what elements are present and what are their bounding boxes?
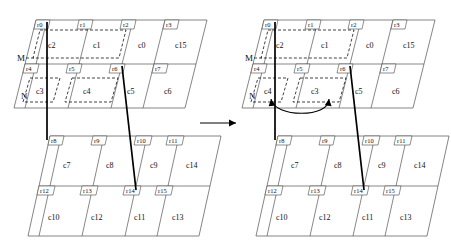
r-u-c15-label: c15 bbox=[403, 41, 415, 50]
l-u-c2-label: c2 bbox=[48, 41, 56, 50]
transition-arrow bbox=[200, 120, 236, 127]
r-u-r1-label: r1 bbox=[308, 21, 313, 28]
l-u-tab-r1: r1 bbox=[77, 20, 93, 29]
l-u-tab-r4: r4 bbox=[23, 64, 39, 73]
r-l-c11-label: c11 bbox=[362, 213, 373, 222]
left-lower-panel: r8 r9 r10 r11 r12 r13 r14 r15 bbox=[28, 136, 221, 236]
l-l-r12-label: r12 bbox=[40, 187, 49, 194]
r-l-c13-label: c13 bbox=[400, 213, 412, 222]
r-u-M-label: M bbox=[245, 53, 253, 63]
r-u-c4-label: c4 bbox=[264, 87, 272, 96]
l-u-r1-label: r1 bbox=[80, 21, 85, 28]
r-u-tab-r5: r5 bbox=[294, 64, 310, 73]
left-connector-line-b bbox=[122, 66, 136, 190]
left-upper-panel: r0 r1 r2 r3 r4 r5 r6 r7 bbox=[14, 20, 207, 108]
r-u-c0-label: c0 bbox=[366, 41, 374, 50]
r-u-c6-label: c6 bbox=[392, 87, 400, 96]
l-u-c1-label: c1 bbox=[93, 41, 101, 50]
r-l-tab-r14: r14 bbox=[351, 186, 369, 195]
right-upper-dashed-box-c3 bbox=[293, 78, 346, 102]
l-l-tab-r9: r9 bbox=[91, 136, 107, 145]
l-u-r5-label: r5 bbox=[69, 65, 74, 72]
l-l-tab-r13: r13 bbox=[80, 186, 98, 195]
r-l-tab-r11: r11 bbox=[394, 136, 412, 145]
l-u-r3-label: r3 bbox=[166, 21, 171, 28]
r-u-r7-label: r7 bbox=[383, 65, 389, 72]
l-u-r4-label: r4 bbox=[26, 65, 32, 72]
r-l-tab-r15: r15 bbox=[383, 186, 401, 195]
l-u-c4-label: c4 bbox=[83, 87, 91, 96]
r-l-r11-label: r11 bbox=[397, 137, 405, 144]
l-u-tab-r3: r3 bbox=[163, 20, 179, 29]
r-l-r10-label: r10 bbox=[365, 137, 374, 144]
l-u-c3-label: c3 bbox=[36, 87, 44, 96]
swap-arrowhead-right bbox=[325, 99, 332, 106]
l-l-r8-label: r8 bbox=[51, 137, 56, 144]
l-l-tab-r11: r11 bbox=[166, 136, 184, 145]
r-u-tab-r2: r2 bbox=[348, 20, 364, 29]
l-l-c11-label: c11 bbox=[134, 213, 145, 222]
l-l-c10-label: c10 bbox=[48, 213, 60, 222]
l-l-r13-label: r13 bbox=[83, 187, 92, 194]
r-u-tab-r7: r7 bbox=[380, 64, 396, 73]
l-u-c15-label: c15 bbox=[175, 41, 187, 50]
l-u-r6-label: r6 bbox=[112, 65, 118, 72]
r-u-r3-label: r3 bbox=[394, 21, 399, 28]
r-l-c9-label: c9 bbox=[378, 161, 386, 170]
l-u-tab-r2: r2 bbox=[120, 20, 136, 29]
l-u-M-label: M bbox=[17, 53, 25, 63]
l-u-r2-label: r2 bbox=[123, 21, 128, 28]
r-l-tab-r13: r13 bbox=[308, 186, 326, 195]
l-l-tab-r12: r12 bbox=[37, 186, 55, 195]
r-l-c14-label: c14 bbox=[414, 161, 426, 170]
l-u-tab-r5: r5 bbox=[66, 64, 82, 73]
l-u-r7-label: r7 bbox=[155, 65, 161, 72]
r-u-tab-r4: r4 bbox=[251, 64, 267, 73]
swap-arrow[interactable] bbox=[269, 99, 332, 113]
r-u-c2-label: c2 bbox=[276, 41, 284, 50]
diagram-svg: r0 r1 r2 r3 r4 r5 r6 r7 bbox=[0, 0, 451, 248]
r-u-N-label: N bbox=[249, 91, 256, 101]
r-l-r9-label: r9 bbox=[322, 137, 327, 144]
right-connector-line-b bbox=[350, 66, 364, 190]
l-l-c7-label: c7 bbox=[63, 161, 71, 170]
l-l-c13-label: c13 bbox=[172, 213, 184, 222]
r-u-r6-label: r6 bbox=[340, 65, 346, 72]
l-u-tab-r7: r7 bbox=[152, 64, 168, 73]
r-l-tab-r8: r8 bbox=[276, 136, 292, 145]
l-l-r9-label: r9 bbox=[94, 137, 99, 144]
l-l-r10-label: r10 bbox=[137, 137, 146, 144]
r-l-c8-label: c8 bbox=[334, 161, 342, 170]
r-l-r8-label: r8 bbox=[279, 137, 284, 144]
r-u-r4-label: r4 bbox=[254, 65, 260, 72]
r-l-c10-label: c10 bbox=[276, 213, 288, 222]
l-l-c8-label: c8 bbox=[106, 161, 114, 170]
r-l-r12-label: r12 bbox=[268, 187, 277, 194]
l-u-c6-label: c6 bbox=[164, 87, 172, 96]
l-l-c14-label: c14 bbox=[186, 161, 198, 170]
r-u-r2-label: r2 bbox=[351, 21, 356, 28]
right-upper-panel: r0 r1 r2 r3 r4 r5 r6 r7 c2 bbox=[242, 20, 435, 108]
r-u-c5-label: c5 bbox=[355, 87, 363, 96]
r-l-tab-r10: r10 bbox=[362, 136, 380, 145]
r-l-c12-label: c12 bbox=[319, 213, 331, 222]
r-l-r15-label: r15 bbox=[386, 187, 395, 194]
l-l-tab-r14: r14 bbox=[123, 186, 141, 195]
r-u-r5-label: r5 bbox=[297, 65, 302, 72]
l-l-c12-label: c12 bbox=[91, 213, 103, 222]
r-l-c7-label: c7 bbox=[291, 161, 299, 170]
r-u-c1-label: c1 bbox=[321, 41, 329, 50]
r-l-tab-r9: r9 bbox=[319, 136, 335, 145]
l-l-tab-r10: r10 bbox=[134, 136, 152, 145]
l-l-r15-label: r15 bbox=[158, 187, 167, 194]
right-lower-panel: r8 r9 r10 r11 r12 r13 r14 r15 bbox=[256, 136, 449, 236]
l-l-c9-label: c9 bbox=[150, 161, 158, 170]
left-upper-dashed-box-c4 bbox=[65, 78, 118, 102]
l-l-r14-label: r14 bbox=[126, 187, 135, 194]
l-l-tab-r15: r15 bbox=[155, 186, 173, 195]
r-l-r13-label: r13 bbox=[311, 187, 320, 194]
l-u-c5-label: c5 bbox=[127, 87, 135, 96]
l-l-tab-r8: r8 bbox=[48, 136, 64, 145]
r-u-tab-r3: r3 bbox=[391, 20, 407, 29]
r-u-tab-r1: r1 bbox=[305, 20, 321, 29]
